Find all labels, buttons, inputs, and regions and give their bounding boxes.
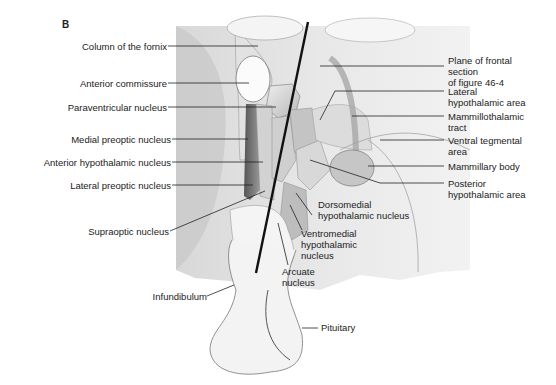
label-dorsomedial-hypothalamic-nucleus: Dorsomedial hypothalamic nucleus — [318, 199, 409, 221]
label-supraoptic-nucleus: Supraoptic nucleus — [88, 226, 169, 237]
panel-letter: B — [62, 19, 69, 30]
label-plane-of-frontal-section: Plane of frontal section of figure 46-4 — [448, 55, 512, 88]
label-lateral-hypothalamic-area: Lateral hypothalamic area — [448, 86, 526, 108]
label-paraventricular-nucleus: Paraventricular nucleus — [68, 102, 167, 113]
label-arcuate-nucleus: Arcuate nucleus — [282, 266, 315, 288]
label-column-of-fornix: Column of the fornix — [82, 41, 167, 52]
label-mammillothalamic-tract: Mammillothalamic tract — [448, 111, 524, 133]
label-medial-preoptic-nucleus: Medial preoptic nucleus — [71, 134, 171, 145]
hypothalamus-diagram: B Column of the fornix Anterior commissu… — [0, 0, 556, 385]
label-posterior-hypothalamic-area: Posterior hypothalamic area — [448, 178, 526, 200]
label-ventral-tegmental-area: Ventral tegmental area — [448, 135, 522, 157]
label-mammillary-body: Mammillary body — [448, 161, 520, 172]
label-lateral-preoptic-nucleus: Lateral preoptic nucleus — [70, 180, 171, 191]
label-anterior-commissure: Anterior commissure — [80, 78, 167, 89]
label-ventromedial-hypothalamic-nucleus: Ventromedial hypothalamic nucleus — [301, 228, 357, 261]
label-infundibulum: Infundibulum — [153, 291, 207, 302]
label-anterior-hypothalamic-nucleus: Anterior hypothalamic nucleus — [44, 157, 171, 168]
label-pituitary: Pituitary — [321, 322, 355, 333]
